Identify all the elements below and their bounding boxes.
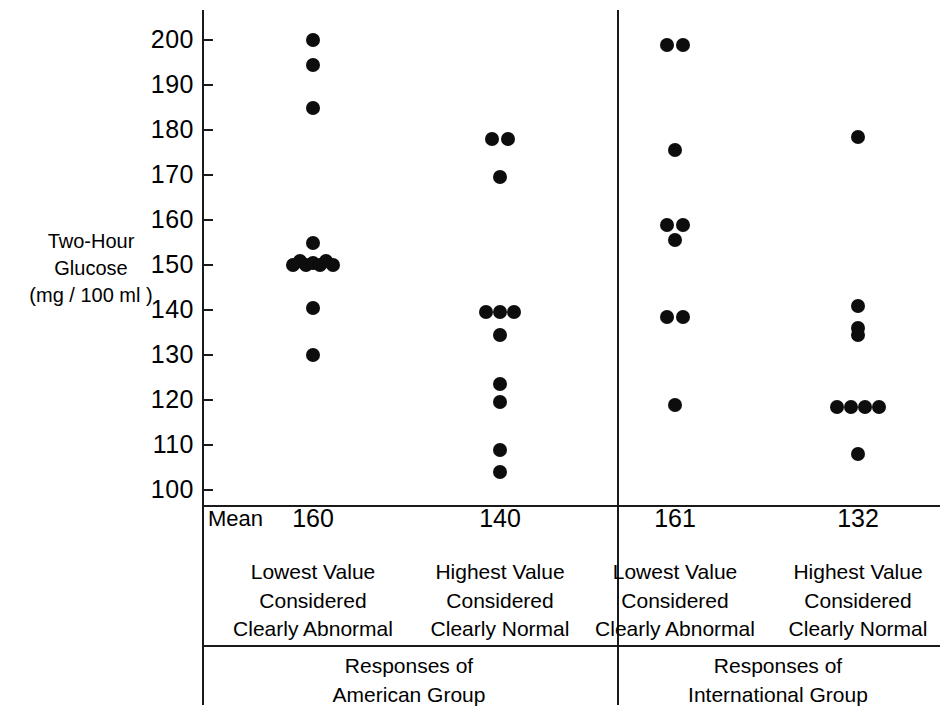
data-point: [507, 305, 521, 319]
y-tick-180: [202, 129, 213, 131]
y-tick-label-130: 130: [122, 342, 194, 367]
group-caption-1-line-0: Responses of: [249, 652, 569, 681]
data-point: [313, 258, 327, 272]
y-tick-label-140: 140: [122, 297, 194, 322]
data-point: [319, 254, 333, 268]
y-tick-label-200: 200: [122, 27, 194, 52]
y-tick-label-180: 180: [122, 117, 194, 142]
data-point: [326, 258, 340, 272]
data-point: [668, 143, 682, 157]
glucose-dot-plot-figure: Two-HourGlucose(mg / 100 ml ) 2001901801…: [0, 0, 940, 710]
data-point: [493, 465, 507, 479]
data-point: [676, 38, 690, 52]
y-tick-label-wrap-140: 140: [110, 310, 194, 311]
data-point: [306, 348, 320, 362]
group-caption-separator: [202, 645, 940, 647]
group-caption-1-line-1: American Group: [249, 681, 569, 710]
data-point: [306, 256, 320, 270]
column-caption-4-line-1: Considered: [748, 587, 940, 616]
y-tick-label-wrap-200: 200: [110, 40, 194, 41]
data-point: [668, 233, 682, 247]
data-point: [676, 310, 690, 324]
y-tick-label-wrap-100: 100: [110, 490, 194, 491]
data-point: [872, 400, 886, 414]
data-point: [660, 38, 674, 52]
group-caption-2-line-1: International Group: [618, 681, 938, 710]
data-point: [493, 377, 507, 391]
y-tick-110: [202, 444, 213, 446]
y-tick-label-170: 170: [122, 162, 194, 187]
data-point: [493, 328, 507, 342]
y-tick-160: [202, 219, 213, 221]
y-tick-120: [202, 399, 213, 401]
data-point: [851, 321, 865, 335]
mean-value-column-4: 132: [837, 506, 879, 531]
group-caption-1: Responses ofAmerican Group: [249, 652, 569, 709]
group-caption-2-line-0: Responses of: [618, 652, 938, 681]
y-tick-100: [202, 489, 213, 491]
y-tick-label-wrap-180: 180: [110, 130, 194, 131]
data-point: [306, 236, 320, 250]
y-tick-label-wrap-160: 160: [110, 220, 194, 221]
data-point: [306, 101, 320, 115]
y-tick-140: [202, 309, 213, 311]
data-point: [493, 305, 507, 319]
mean-value-column-3: 161: [654, 506, 696, 531]
data-point: [668, 398, 682, 412]
data-point: [485, 132, 499, 146]
data-point: [293, 254, 307, 268]
data-point: [660, 218, 674, 232]
mean-row-label: Mean: [208, 508, 263, 530]
data-point: [306, 33, 320, 47]
y-tick-130: [202, 354, 213, 356]
y-tick-190: [202, 84, 213, 86]
data-point: [844, 400, 858, 414]
data-point: [676, 218, 690, 232]
mean-value-column-1: 160: [292, 506, 334, 531]
y-tick-label-wrap-190: 190: [110, 85, 194, 86]
data-point: [306, 58, 320, 72]
column-caption-4: Highest ValueConsideredClearly Normal: [748, 558, 940, 644]
y-tick-label-120: 120: [122, 387, 194, 412]
data-point: [851, 130, 865, 144]
column-caption-4-line-0: Highest Value: [748, 558, 940, 587]
data-point: [851, 447, 865, 461]
data-point: [306, 301, 320, 315]
data-point: [851, 299, 865, 313]
y-tick-label-110: 110: [122, 432, 194, 457]
y-tick-200: [202, 39, 213, 41]
data-point: [479, 305, 493, 319]
mean-value-column-2: 140: [479, 506, 521, 531]
y-tick-label-wrap-130: 130: [110, 355, 194, 356]
y-tick-label-160: 160: [122, 207, 194, 232]
data-point: [501, 132, 515, 146]
data-point: [858, 400, 872, 414]
y-tick-label-150: 150: [122, 252, 194, 277]
data-point: [493, 443, 507, 457]
y-tick-label-wrap-120: 120: [110, 400, 194, 401]
y-tick-170: [202, 174, 213, 176]
data-point: [660, 310, 674, 324]
group-caption-2: Responses ofInternational Group: [618, 652, 938, 709]
y-tick-label-wrap-150: 150: [110, 265, 194, 266]
data-point: [299, 258, 313, 272]
data-point: [493, 395, 507, 409]
y-tick-label-wrap-110: 110: [110, 445, 194, 446]
data-point: [493, 170, 507, 184]
y-tick-label-190: 190: [122, 72, 194, 97]
data-point: [286, 258, 300, 272]
data-point: [830, 400, 844, 414]
y-tick-label-100: 100: [122, 477, 194, 502]
column-caption-4-line-2: Clearly Normal: [748, 615, 940, 644]
data-point: [851, 328, 865, 342]
y-tick-150: [202, 264, 213, 266]
y-tick-label-wrap-170: 170: [110, 175, 194, 176]
